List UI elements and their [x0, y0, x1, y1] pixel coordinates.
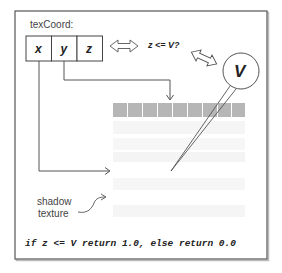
cell-y-label: y — [60, 42, 69, 56]
texture-row-faint — [113, 121, 245, 134]
texcoord-label: texCoord: — [30, 19, 73, 30]
sampled-texture-row — [113, 103, 245, 117]
texture-row-faint — [113, 205, 245, 217]
texture-row-faint — [113, 178, 245, 190]
shadow-map-diagram: texCoord: x y z z <= V? — [0, 0, 282, 273]
texcoord-cells: x y z — [26, 36, 103, 61]
cell-z-label: z — [85, 42, 92, 56]
shadow-label-line1: shadow — [37, 196, 72, 207]
shadow-label-line2: texture — [38, 208, 69, 219]
cell-x-label: x — [34, 42, 43, 56]
depth-value-label: V — [234, 62, 247, 81]
comparison-text: z <= V? — [147, 40, 180, 50]
texture-row-faint — [113, 138, 245, 150]
code-line: if z <= V return 1.0, else return 0.0 — [25, 238, 236, 249]
